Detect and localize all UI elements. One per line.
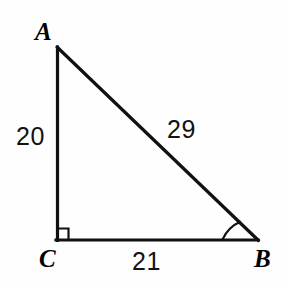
vertex-label-b: B (254, 246, 271, 271)
angle-arc-marker-icon (223, 222, 241, 240)
side-length-label-ac: 20 (16, 124, 45, 149)
vertex-label-c: C (39, 246, 56, 271)
side-length-label-cb: 21 (132, 249, 161, 274)
vertex-label-a: A (35, 19, 52, 44)
side-length-label-ab: 29 (167, 117, 196, 142)
triangle-side-ab (57, 47, 259, 241)
right-angle-marker-icon (58, 229, 69, 240)
triangle-figure: A B C 20 29 21 (0, 0, 286, 288)
